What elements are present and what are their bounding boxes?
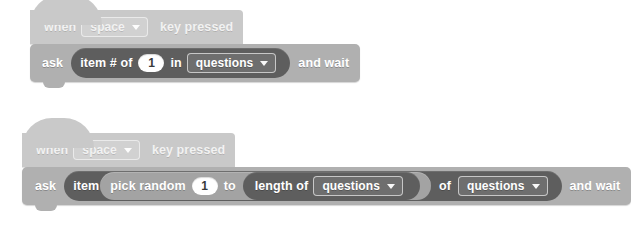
- command-bottom-nub-1: [43, 81, 65, 88]
- list-dropdown-length[interactable]: questions: [313, 176, 403, 196]
- ask-and-wait-block-2[interactable]: ask item pick random 1 to length of ques…: [22, 167, 631, 205]
- list-dropdown-value-1: questions: [196, 56, 254, 70]
- key-dropdown-2[interactable]: space: [73, 140, 140, 160]
- item-of-reporter[interactable]: item pick random 1 to length of question…: [64, 171, 561, 201]
- item-num-of-label: item # of: [80, 56, 132, 70]
- key-pressed-label-2: key pressed: [152, 143, 225, 157]
- list-dropdown-1[interactable]: questions: [187, 53, 277, 73]
- and-wait-label-1: and wait: [298, 56, 349, 70]
- key-dropdown-value-2: space: [82, 143, 117, 157]
- of-label: of: [439, 179, 451, 193]
- chevron-down-icon: [532, 184, 540, 189]
- item-number-of-reporter[interactable]: item # of 1 in questions: [71, 48, 290, 78]
- ask-label-1: ask: [42, 56, 63, 70]
- length-of-reporter[interactable]: length of questions: [243, 172, 420, 200]
- when-key-pressed-hat-block-1[interactable]: when space key pressed: [30, 10, 243, 44]
- chevron-down-icon: [132, 25, 140, 30]
- chevron-down-icon: [124, 148, 132, 153]
- item-label: item: [73, 179, 99, 193]
- to-label: to: [224, 179, 236, 193]
- pick-random-from-input[interactable]: 1: [192, 177, 218, 195]
- when-label-1: when: [44, 20, 76, 34]
- chevron-down-icon: [260, 61, 268, 66]
- list-dropdown-2[interactable]: questions: [458, 176, 548, 196]
- key-dropdown-1[interactable]: space: [81, 17, 148, 37]
- ask-label-2: ask: [35, 179, 56, 193]
- when-key-pressed-hat-block-2[interactable]: when space key pressed: [22, 133, 235, 167]
- script-stack-2[interactable]: when space key pressed ask item pick ran…: [22, 133, 631, 205]
- chevron-down-icon: [387, 184, 395, 189]
- item-index-input[interactable]: 1: [138, 54, 164, 72]
- when-label-2: when: [36, 143, 68, 157]
- list-dropdown-value-2: questions: [467, 179, 525, 193]
- length-of-label: length of: [255, 179, 309, 193]
- key-dropdown-value-1: space: [90, 20, 125, 34]
- ask-and-wait-block-1[interactable]: ask item # of 1 in questions and wait: [30, 44, 360, 82]
- script-stack-1[interactable]: when space key pressed ask item # of 1 i…: [30, 10, 360, 82]
- pick-random-reporter[interactable]: pick random 1 to length of questions: [100, 172, 431, 200]
- and-wait-label-2: and wait: [570, 179, 621, 193]
- key-pressed-label-1: key pressed: [160, 20, 233, 34]
- in-label: in: [170, 56, 181, 70]
- pick-random-label: pick random: [110, 179, 185, 193]
- list-dropdown-length-value: questions: [322, 179, 380, 193]
- command-bottom-nub-2: [35, 204, 57, 211]
